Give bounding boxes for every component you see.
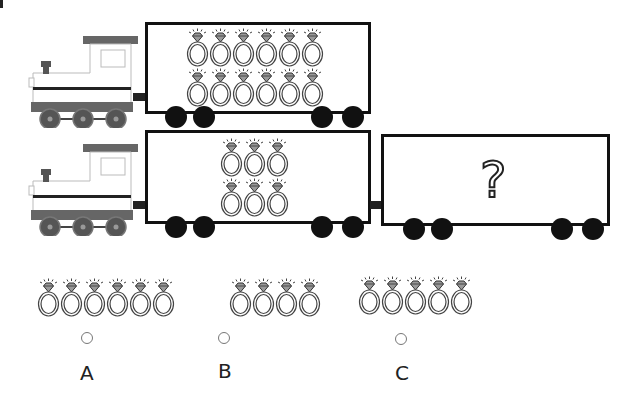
ring-group [186,28,326,108]
diamond-ring-icon [381,276,404,316]
diamond-ring-icon [186,28,209,68]
diamond-ring-icon [106,278,129,318]
radio-option-a[interactable] [81,332,93,344]
diamond-ring-icon [301,28,324,68]
freight-car [145,22,371,114]
ring-group [220,138,290,218]
diamond-ring-icon [220,138,243,178]
wheel [193,106,215,128]
locomotive-icon [28,141,138,236]
diamond-ring-icon [152,278,175,318]
diamond-ring-icon [275,278,298,318]
ring-group [37,278,175,318]
diamond-ring-icon [266,178,289,218]
wheel [582,218,604,240]
diamond-ring-icon [278,68,301,108]
diamond-ring-icon [37,278,60,318]
diamond-ring-icon [252,278,275,318]
diamond-ring-icon [243,138,266,178]
option-label: C [395,361,409,385]
diamond-ring-icon [404,276,427,316]
diamond-ring-icon [266,138,289,178]
wheel [311,216,333,238]
diamond-ring-icon [83,278,106,318]
diamond-ring-icon [60,278,83,318]
diamond-ring-icon [209,28,232,68]
diamond-ring-icon [450,276,473,316]
locomotive-icon [28,33,138,128]
radio-option-b[interactable] [218,332,230,344]
diamond-ring-icon [232,68,255,108]
wheel [165,216,187,238]
diamond-ring-icon [229,278,252,318]
wheel [193,216,215,238]
diamond-ring-icon [255,68,278,108]
wheel [342,216,364,238]
wheel [431,218,453,240]
diamond-ring-icon [129,278,152,318]
option-label: B [218,359,232,383]
diamond-ring-icon [209,68,232,108]
unknown-freight-car: ? [381,134,610,226]
option-label: A [80,361,94,385]
diamond-ring-icon [301,68,324,108]
wheel [311,106,333,128]
wheel [403,218,425,240]
wheel [165,106,187,128]
diamond-ring-icon [255,28,278,68]
ring-group [358,276,473,316]
ring-group [229,278,321,318]
coupler [133,201,145,209]
diamond-ring-icon [427,276,450,316]
diamond-ring-icon [243,178,266,218]
wheel [342,106,364,128]
coupler [133,93,145,101]
diamond-ring-icon [278,28,301,68]
corner-mark [0,0,3,8]
diamond-ring-icon [232,28,255,68]
diamond-ring-icon [358,276,381,316]
diamond-ring-icon [298,278,321,318]
question-mark: ? [480,155,507,205]
freight-car [145,130,371,224]
diamond-ring-icon [186,68,209,108]
radio-option-c[interactable] [395,333,407,345]
diamond-ring-icon [220,178,243,218]
wheel [551,218,573,240]
